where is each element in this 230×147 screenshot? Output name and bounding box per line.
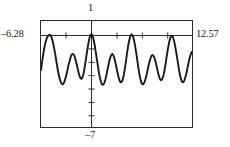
x-min-label: –6.28 [1,28,24,39]
x-max-label: 12.57 [196,28,219,39]
plot-canvas [0,0,230,147]
y-max-label: 1 [88,2,93,13]
graph-viewport: –6.28 12.57 1 –7 [0,0,230,147]
y-min-label: –7 [85,129,95,140]
data-curve [41,34,192,84]
